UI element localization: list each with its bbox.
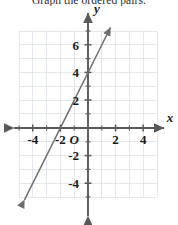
origin-label: O	[70, 132, 80, 147]
x-axis-label: x	[166, 110, 174, 125]
xtick-label--4: -4	[27, 132, 38, 147]
graph-svg: -4 -2 2 4 6 4 2 -2 -4 O x y	[0, 0, 178, 225]
xtick-label-4: 4	[140, 132, 147, 147]
ytick-label--2: -2	[68, 148, 79, 163]
axis-name-labels: x y	[92, 1, 174, 125]
coordinate-plane-graph: -4 -2 2 4 6 4 2 -2 -4 O x y	[0, 0, 178, 225]
ytick-label-6: 6	[73, 38, 80, 53]
axes	[14, 13, 164, 216]
ytick-label-4: 4	[73, 65, 80, 80]
xtick-label-2: 2	[112, 132, 119, 147]
xtick-label--2: -2	[55, 132, 66, 147]
y-axis-label: y	[92, 1, 100, 16]
ytick-label-2: 2	[73, 93, 80, 108]
graph-page: Graph the ordered pairs.	[0, 0, 178, 225]
ytick-label--4: -4	[68, 176, 79, 191]
